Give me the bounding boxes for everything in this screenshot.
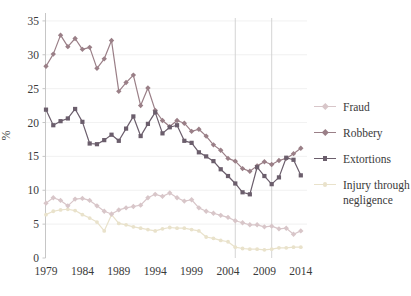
legend-item-fraud: Fraud xyxy=(314,100,411,115)
injury-marker xyxy=(117,222,121,226)
extortions-legend-marker-icon xyxy=(314,152,336,165)
y-tick-label-10: 10 xyxy=(28,184,40,196)
injury-marker xyxy=(95,220,99,224)
extortions-marker xyxy=(131,114,135,118)
extortions-marker xyxy=(291,158,295,162)
injury-marker xyxy=(197,229,201,233)
injury-marker xyxy=(131,225,135,229)
fraud-marker xyxy=(109,211,114,216)
injury-marker xyxy=(168,226,172,230)
fraud-marker xyxy=(240,220,245,225)
x-tick-label-1994: 1994 xyxy=(144,265,167,277)
injury-marker xyxy=(73,209,77,213)
fraud-marker xyxy=(160,194,165,199)
injury-marker xyxy=(233,245,237,249)
injury-line xyxy=(46,209,301,250)
extortions-marker xyxy=(109,133,113,137)
robbery-marker xyxy=(109,38,114,43)
extortions-marker xyxy=(146,122,150,126)
line-chart-figure: 0510152025303519791984198919941999200420… xyxy=(0,0,411,296)
legend-item-extortions: Extortions xyxy=(314,152,411,167)
extortions-marker xyxy=(117,139,121,143)
fraud-marker xyxy=(225,215,230,220)
robbery-marker xyxy=(276,158,281,163)
robbery-marker xyxy=(51,51,56,56)
extortions-marker xyxy=(160,131,164,135)
fraud-marker xyxy=(254,222,259,227)
extortions-marker xyxy=(153,110,157,114)
fraud-marker xyxy=(298,228,303,233)
fraud-marker xyxy=(218,213,223,218)
y-tick-label-35: 35 xyxy=(28,15,40,27)
injury-marker xyxy=(139,226,143,230)
extortions-marker xyxy=(58,119,62,123)
injury-marker xyxy=(241,247,245,251)
injury-legend-label: Injury through negligence xyxy=(343,178,411,208)
injury-marker xyxy=(161,227,165,231)
y-tick-label-15: 15 xyxy=(28,150,40,162)
extortions-marker xyxy=(66,116,70,120)
robbery-marker xyxy=(262,159,267,164)
extortions-marker xyxy=(182,139,186,143)
injury-marker xyxy=(292,245,296,249)
extortions-legend-label: Extortions xyxy=(343,152,391,167)
robbery-marker xyxy=(138,103,143,108)
extortions-marker xyxy=(80,120,84,124)
extortions-marker xyxy=(299,173,303,177)
robbery-marker xyxy=(269,162,274,167)
fraud-marker xyxy=(182,198,187,203)
injury-marker xyxy=(212,236,216,240)
injury-marker xyxy=(284,246,288,250)
x-tick-label-2009: 2009 xyxy=(253,265,276,277)
extortions-marker xyxy=(73,107,77,111)
x-tick-label-1999: 1999 xyxy=(180,265,203,277)
extortions-marker xyxy=(248,192,252,196)
x-tick-label-1979: 1979 xyxy=(35,265,58,277)
injury-marker xyxy=(59,208,63,212)
injury-marker xyxy=(255,247,259,251)
fraud-marker xyxy=(123,205,128,210)
robbery-line xyxy=(46,35,301,171)
injury-legend-marker-icon xyxy=(314,178,336,191)
injury-marker xyxy=(190,228,194,232)
extortions-marker xyxy=(233,181,237,185)
legend-item-injury: Injury through negligence xyxy=(314,178,411,208)
fraud-marker xyxy=(233,218,238,223)
legend: Fraud Robbery Extortions Injury through … xyxy=(314,100,411,208)
extortions-marker xyxy=(102,138,106,142)
injury-marker xyxy=(175,226,179,230)
x-tick-label-2004: 2004 xyxy=(217,265,240,277)
legend-item-robbery: Robbery xyxy=(314,126,411,141)
extortions-marker xyxy=(51,123,55,127)
y-tick-label-20: 20 xyxy=(28,117,40,129)
y-axis-label: % xyxy=(0,131,14,141)
extortions-marker xyxy=(284,156,288,160)
extortions-marker xyxy=(277,175,281,179)
injury-marker xyxy=(248,247,252,251)
injury-marker xyxy=(299,245,303,249)
extortions-marker xyxy=(255,165,259,169)
extortions-marker xyxy=(44,108,48,112)
robbery-marker xyxy=(43,64,48,69)
robbery-legend-label: Robbery xyxy=(343,126,383,141)
extortions-marker xyxy=(197,150,201,154)
injury-marker xyxy=(124,223,128,227)
extortions-marker xyxy=(270,182,274,186)
injury-marker xyxy=(88,216,92,220)
y-tick-label-0: 0 xyxy=(33,252,39,264)
fraud-marker xyxy=(153,192,158,197)
extortions-marker xyxy=(211,159,215,163)
injury-marker xyxy=(263,248,267,252)
y-tick-label-30: 30 xyxy=(28,49,40,61)
injury-marker xyxy=(44,213,48,217)
injury-marker xyxy=(270,247,274,251)
extortions-marker xyxy=(204,154,208,158)
extortions-marker xyxy=(124,127,128,131)
robbery-marker xyxy=(87,45,92,50)
extortions-marker xyxy=(95,142,99,146)
injury-marker xyxy=(182,226,186,230)
x-tick-label-1984: 1984 xyxy=(71,265,94,277)
injury-marker xyxy=(51,209,55,213)
robbery-marker xyxy=(145,85,150,90)
injury-marker xyxy=(204,235,208,239)
